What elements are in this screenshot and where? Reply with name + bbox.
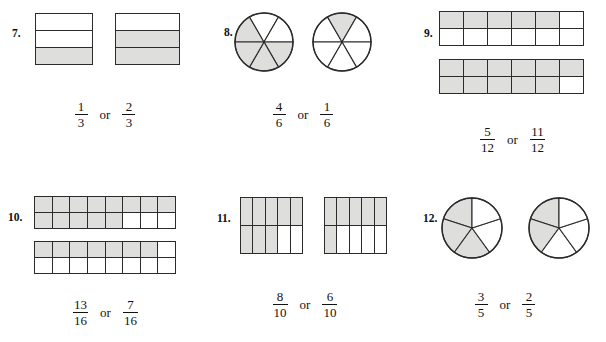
- fraction-circle-right-12: [526, 194, 592, 262]
- grid-cell-shaded: [87, 197, 105, 212]
- grid-cell: [559, 29, 583, 45]
- grid-row: [35, 242, 175, 257]
- fraction-denominator: 3: [125, 116, 134, 129]
- circle-sectors-svg-left-8: [233, 8, 295, 74]
- or-label: or: [300, 296, 311, 313]
- fraction-numerator: 6: [326, 290, 335, 303]
- bar-cell: [36, 31, 92, 47]
- grid-row: [35, 197, 175, 212]
- fraction-left-9: 5 12: [480, 125, 495, 154]
- grid-row: [440, 60, 583, 76]
- problem-8-figures: [233, 8, 373, 74]
- bar-cell-shaded: [116, 48, 179, 64]
- grid-cell-shaded: [140, 242, 158, 257]
- fraction-grid-right-11: [324, 197, 387, 254]
- grid-cell: [122, 258, 140, 273]
- bar-cell: [116, 14, 179, 30]
- grid-cell-shaded: [535, 77, 559, 93]
- grid-cell: [52, 258, 70, 273]
- bar-row: [116, 47, 179, 64]
- grid-cell-shaded: [349, 198, 361, 225]
- or-label: or: [100, 106, 111, 123]
- fraction-denominator: 10: [322, 306, 337, 319]
- fraction-right-12: 2 5: [522, 290, 535, 319]
- grid-cell-shaded: [105, 242, 123, 257]
- bar-cell-shaded: [36, 48, 92, 64]
- fraction-bar-left-7: [35, 13, 93, 65]
- fraction-circle-left-8: [233, 8, 295, 74]
- fraction-right-7: 2 3: [122, 100, 135, 129]
- grid-cell-shaded: [511, 60, 535, 76]
- grid-cell-shaded: [440, 60, 463, 76]
- problem-7: 7. 1 3 or 2 3: [0, 0, 205, 140]
- fraction-denominator: 3: [77, 116, 86, 129]
- grid-cell: [336, 226, 348, 253]
- fraction-numerator: 5: [483, 125, 492, 138]
- fraction-circle-right-8: [311, 8, 373, 74]
- fraction-left-12: 3 5: [475, 290, 488, 319]
- fraction-denominator: 12: [530, 141, 545, 154]
- or-label: or: [298, 106, 309, 123]
- grid-cell-shaded: [157, 197, 175, 212]
- fraction-grid-left-11: [240, 197, 303, 254]
- grid-cell-shaded: [105, 213, 123, 228]
- fraction-numerator: 1: [77, 100, 86, 113]
- grid-cell: [361, 226, 373, 253]
- grid-cell: [349, 226, 361, 253]
- fraction-right-11: 6 10: [322, 290, 337, 319]
- problem-8: 8.: [205, 0, 405, 140]
- grid-row: [325, 198, 386, 225]
- fraction-grid-right-9: [439, 59, 584, 94]
- worksheet-page: 7. 1 3 or 2 3: [0, 0, 606, 342]
- circle-sectors-svg-right-12: [526, 194, 592, 262]
- problem-9-answer-row: 5 12 or 11 12: [445, 125, 580, 154]
- fraction-denominator: 5: [477, 306, 486, 319]
- fraction-denominator: 16: [73, 314, 88, 327]
- fraction-numerator: 1: [323, 100, 332, 113]
- problem-9-figures: [439, 11, 584, 94]
- grid-cell-shaded: [87, 242, 105, 257]
- bar-row: [36, 30, 92, 47]
- grid-cell-shaded: [265, 198, 277, 225]
- fraction-grid-left-10: [34, 196, 176, 229]
- grid-row: [440, 28, 583, 45]
- grid-cell-shaded: [511, 12, 535, 28]
- problem-12-answer-row: 3 5 or 2 5: [435, 290, 575, 319]
- fraction-denominator: 6: [275, 116, 284, 129]
- problem-11-figures: [240, 197, 387, 254]
- fraction-bar-right-7: [115, 13, 180, 65]
- grid-cell-shaded: [336, 198, 348, 225]
- fraction-numerator: 2: [525, 290, 534, 303]
- grid-cell-shaded: [290, 198, 302, 225]
- problem-9: 9.: [405, 0, 606, 165]
- problem-7-answer-row: 1 3 or 2 3: [30, 100, 180, 129]
- grid-cell-shaded: [511, 77, 535, 93]
- fraction-left-7: 1 3: [75, 100, 88, 129]
- grid-cell-shaded: [241, 226, 252, 253]
- problem-10-figures: [34, 196, 176, 274]
- fraction-denominator: 12: [480, 141, 495, 154]
- figure-gap: [34, 229, 176, 241]
- fraction-numerator: 4: [275, 100, 284, 113]
- grid-cell-shaded: [325, 226, 336, 253]
- fraction-right-9: 11 12: [530, 125, 545, 154]
- grid-cell: [122, 213, 140, 228]
- problem-12-figures: [439, 194, 592, 262]
- grid-cell-shaded: [487, 77, 511, 93]
- grid-cell: [87, 258, 105, 273]
- grid-cell-shaded: [559, 60, 583, 76]
- fraction-numerator: 8: [276, 290, 285, 303]
- problem-11-answer-row: 8 10 or 6 10: [235, 290, 375, 319]
- problem-12: 12.: [405, 190, 606, 342]
- grid-cell-shaded: [252, 198, 264, 225]
- grid-cell-shaded: [140, 197, 158, 212]
- problem-number-10: 10.: [8, 211, 22, 223]
- grid-cell: [559, 77, 583, 93]
- bar-row: [116, 30, 179, 47]
- grid-cell-shaded: [463, 12, 487, 28]
- grid-cell: [487, 29, 511, 45]
- circle-sectors-svg-left-12: [439, 194, 505, 262]
- fraction-right-8: 1 6: [320, 100, 333, 129]
- grid-cell: [157, 213, 175, 228]
- grid-cell: [290, 226, 302, 253]
